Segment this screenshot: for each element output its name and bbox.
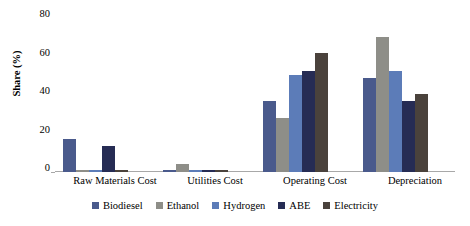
bar xyxy=(115,170,128,172)
y-axis-ticks: 80 60 40 20 0 xyxy=(20,14,50,172)
legend-swatch-icon xyxy=(156,202,163,209)
legend-item[interactable]: Biodiesel xyxy=(92,200,143,211)
bar xyxy=(276,118,289,172)
bar xyxy=(89,170,102,172)
legend-swatch-icon xyxy=(323,202,330,209)
bar xyxy=(389,71,402,172)
y-tick-label-20: 20 xyxy=(26,125,50,135)
bar xyxy=(315,53,328,172)
bar xyxy=(376,37,389,172)
bar xyxy=(76,170,89,172)
legend-item[interactable]: Hydrogen xyxy=(212,200,265,211)
x-label-depreciation: Depreciation xyxy=(355,175,470,186)
y-axis-tick-mark-0 xyxy=(51,172,55,173)
plot-area xyxy=(55,14,455,172)
bar-group xyxy=(163,14,228,172)
bar xyxy=(289,75,302,172)
bar xyxy=(415,94,428,172)
legend-label: Hydrogen xyxy=(223,200,265,211)
chart-legend: BiodieselEthanolHydrogenABEElectricity xyxy=(0,200,470,211)
bar xyxy=(302,71,315,172)
legend-label: ABE xyxy=(289,200,310,211)
bar xyxy=(176,164,189,172)
bar-group xyxy=(263,14,328,172)
bar-group xyxy=(363,14,428,172)
legend-item[interactable]: ABE xyxy=(278,200,310,211)
y-tick-label-0: 0 xyxy=(26,163,50,173)
legend-label: Biodiesel xyxy=(103,200,143,211)
legend-swatch-icon xyxy=(212,202,219,209)
bar-group xyxy=(63,14,128,172)
bar xyxy=(102,146,115,172)
bar xyxy=(163,170,176,172)
bar xyxy=(202,170,215,172)
bar xyxy=(63,139,76,172)
legend-item[interactable]: Electricity xyxy=(323,200,378,211)
bar xyxy=(402,101,415,172)
x-axis-labels: Raw Materials Cost Utilities Cost Operat… xyxy=(55,175,455,191)
legend-label: Ethanol xyxy=(167,200,200,211)
bar xyxy=(263,101,276,172)
bar xyxy=(189,170,202,172)
y-tick-label-80: 80 xyxy=(26,9,50,19)
legend-swatch-icon xyxy=(92,202,99,209)
y-tick-label-60: 60 xyxy=(26,48,50,58)
legend-item[interactable]: Ethanol xyxy=(156,200,200,211)
legend-swatch-icon xyxy=(278,202,285,209)
y-tick-label-40: 40 xyxy=(26,86,50,96)
bar-chart: Share (%) 80 60 40 20 0 Raw Materials Co… xyxy=(0,0,470,226)
bar xyxy=(363,78,376,172)
legend-label: Electricity xyxy=(334,200,378,211)
bar xyxy=(215,170,228,172)
